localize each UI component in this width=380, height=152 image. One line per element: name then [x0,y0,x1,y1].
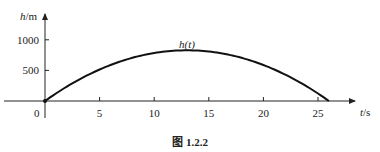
curve-label: h(t) [179,38,195,51]
x-ticks: 510152025 [97,97,324,119]
x-tick-label: 25 [313,107,325,119]
y-axis-label: h/m [20,10,38,22]
x-tick-label: 10 [149,107,161,119]
y-ticks: 5001000 [17,34,49,77]
x-tick-label: 15 [203,107,215,119]
chart-canvas: 510152025 5001000 h(t) 0 h/m t/s 图 1.2.2 [0,0,380,152]
y-tick-label: 1000 [17,34,40,46]
figure-caption: 图 1.2.2 [172,136,208,148]
y-tick-label: 500 [23,64,40,76]
origin-label: 0 [34,107,40,119]
x-tick-label: 5 [97,107,103,119]
x-tick-label: 20 [258,107,270,119]
origin-point [43,99,47,103]
h-t-curve [45,50,329,101]
x-axis-label: t/s [360,106,370,118]
